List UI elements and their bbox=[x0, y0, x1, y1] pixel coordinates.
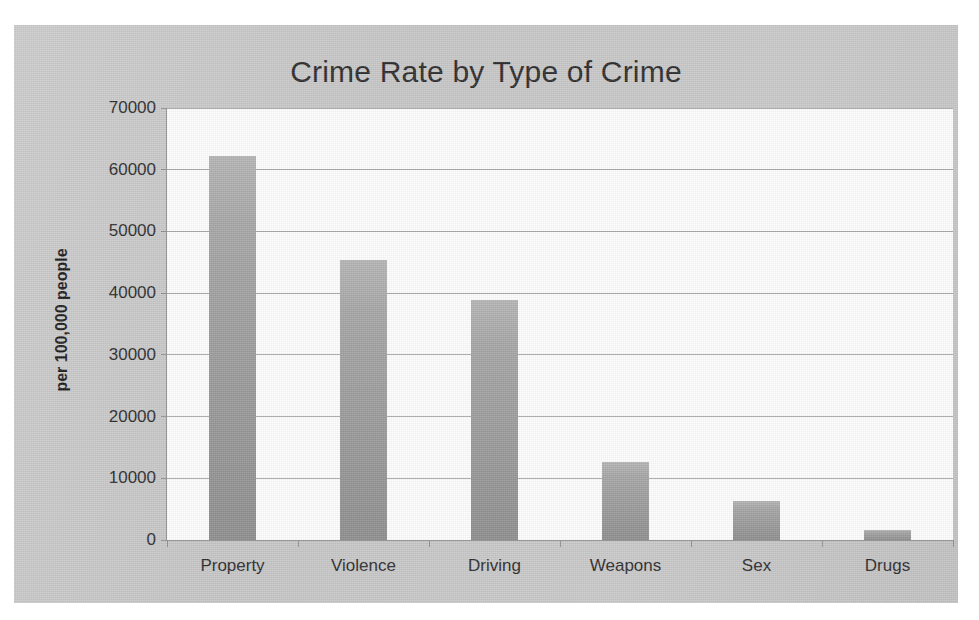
bar-driving bbox=[471, 300, 518, 540]
y-axis-tick bbox=[161, 354, 167, 355]
x-axis-tick bbox=[429, 540, 430, 547]
x-axis-tick bbox=[953, 540, 954, 547]
gridline bbox=[167, 540, 953, 541]
bar-sex bbox=[733, 501, 780, 540]
y-axis-label: 20000 bbox=[109, 407, 156, 427]
x-axis-tick bbox=[167, 540, 168, 547]
y-axis-label: 0 bbox=[147, 530, 156, 550]
x-axis-tick bbox=[691, 540, 692, 547]
gridline bbox=[167, 169, 953, 170]
gridline bbox=[167, 231, 953, 232]
gridline bbox=[167, 293, 953, 294]
chart-panel: Crime Rate by Type of Crime per 100,000 … bbox=[14, 25, 958, 603]
y-axis-tick bbox=[161, 231, 167, 232]
x-axis-label-drugs: Drugs bbox=[865, 556, 910, 576]
y-axis-tick bbox=[161, 108, 167, 109]
y-axis-tick bbox=[161, 293, 167, 294]
chart-title: Crime Rate by Type of Crime bbox=[14, 55, 958, 89]
bar-drugs bbox=[864, 530, 911, 540]
y-axis-title: per 100,000 people bbox=[53, 210, 71, 430]
y-axis-label: 10000 bbox=[109, 468, 156, 488]
bar-property bbox=[209, 156, 256, 540]
bar-weapons bbox=[602, 462, 649, 540]
bar-violence bbox=[340, 260, 387, 540]
x-axis-label-weapons: Weapons bbox=[590, 556, 662, 576]
y-axis-tick bbox=[161, 169, 167, 170]
chart-screenshot: Crime Rate by Type of Crime per 100,000 … bbox=[0, 0, 979, 620]
x-axis-label-sex: Sex bbox=[742, 556, 771, 576]
y-axis-label: 60000 bbox=[109, 160, 156, 180]
y-axis-label: 70000 bbox=[109, 98, 156, 118]
x-axis-tick bbox=[298, 540, 299, 547]
y-axis-tick bbox=[161, 478, 167, 479]
y-axis-label: 30000 bbox=[109, 345, 156, 365]
gridline bbox=[167, 416, 953, 417]
x-axis-tick bbox=[822, 540, 823, 547]
y-axis-tick bbox=[161, 416, 167, 417]
plot-area: 010000200003000040000500006000070000 Pro… bbox=[166, 108, 953, 540]
gridline bbox=[167, 108, 953, 109]
x-axis-label-driving: Driving bbox=[468, 556, 521, 576]
x-axis-label-violence: Violence bbox=[331, 556, 396, 576]
y-axis-tick bbox=[161, 540, 167, 541]
y-axis-label: 40000 bbox=[109, 283, 156, 303]
x-axis-tick bbox=[560, 540, 561, 547]
x-axis-label-property: Property bbox=[200, 556, 264, 576]
y-axis-label: 50000 bbox=[109, 221, 156, 241]
gridline bbox=[167, 478, 953, 479]
gridline bbox=[167, 354, 953, 355]
